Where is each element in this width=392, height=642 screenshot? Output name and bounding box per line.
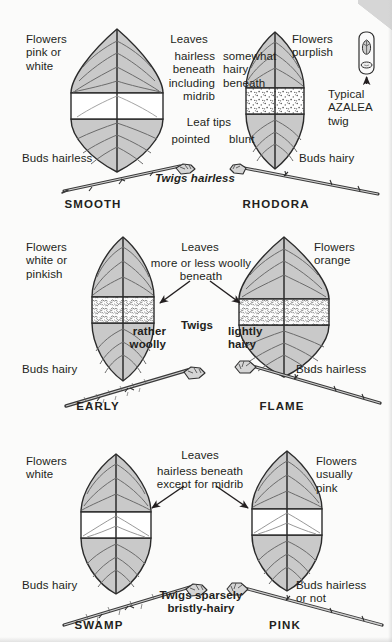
inset-caption: Typical AZALEA twig bbox=[328, 88, 384, 128]
flowers-label-flame: Flowers orange bbox=[314, 241, 378, 268]
leaf-tips-heading: Leaf tips bbox=[176, 116, 242, 129]
buds-label-rhodora: Buds hairy bbox=[299, 152, 373, 165]
flowers-label-smooth: Flowers pink or white bbox=[26, 33, 92, 73]
twigs-note-top: Twigs hairless bbox=[145, 172, 245, 185]
arrow-right-mid bbox=[210, 281, 240, 303]
identification-plate: Flowers pink or white Leaves hairless be… bbox=[0, 0, 392, 642]
buds-label-smooth: Buds hairless bbox=[22, 152, 102, 165]
buds-label-pink: Buds hairless or not bbox=[296, 579, 384, 606]
species-name-swamp: SWAMP bbox=[52, 619, 146, 631]
flowers-label-early: Flowers white or pinkish bbox=[26, 241, 98, 281]
twig-texture-flame: lightly hairy bbox=[228, 325, 284, 352]
flowers-label-rhodora: Flowers purplish bbox=[292, 33, 354, 60]
leaves-detail-bot: hairless beneath except for midrib bbox=[140, 465, 260, 492]
twigs-note-bot: Twigs sparsely bristly-hairy bbox=[148, 589, 254, 616]
panel-early-flame: Flowers white or pinkish Leaves more or … bbox=[0, 215, 392, 427]
bud-cluster-flame bbox=[235, 361, 256, 373]
flowers-label-swamp: Flowers white bbox=[26, 455, 92, 482]
species-name-flame: FLAME bbox=[242, 400, 322, 412]
flowers-label-pink: Flowers usually pink bbox=[316, 455, 382, 495]
buds-label-flame: Buds hairless bbox=[296, 363, 382, 376]
leaves-detail-mid: more or less woolly beneath bbox=[145, 257, 257, 284]
species-name-pink: PINK bbox=[245, 619, 325, 631]
buds-label-early: Buds hairy bbox=[22, 363, 96, 376]
inset-azalea-twig-tip bbox=[354, 30, 380, 86]
species-name-smooth: SMOOTH bbox=[48, 198, 138, 210]
buds-label-swamp: Buds hairy bbox=[22, 579, 96, 592]
leaves-heading-bot: Leaves bbox=[158, 449, 242, 462]
leaves-right-detail-top: somewhat hairy beneath bbox=[223, 50, 297, 90]
leaves-left-detail-top: hairless beneath including midrib bbox=[143, 50, 215, 104]
leaves-heading-top: Leaves bbox=[147, 33, 231, 46]
arrow-left-mid bbox=[160, 281, 190, 303]
leaf-tip-pointed: pointed bbox=[146, 133, 210, 146]
species-name-rhodora: RHODORA bbox=[229, 198, 323, 210]
twig-texture-early: rather woolly bbox=[110, 325, 166, 352]
species-name-early: EARLY bbox=[58, 400, 138, 412]
leaf-scar bbox=[361, 62, 372, 68]
leaf-tip-blunt: blunt bbox=[229, 133, 283, 146]
leaves-heading-mid: Leaves bbox=[158, 241, 242, 254]
panel-smooth-rhodora: Flowers pink or white Leaves hairless be… bbox=[0, 0, 392, 215]
twigs-heading-mid: Twigs bbox=[167, 319, 227, 332]
panel-swamp-pink: Flowers white Leaves hairless beneath ex… bbox=[0, 427, 392, 642]
